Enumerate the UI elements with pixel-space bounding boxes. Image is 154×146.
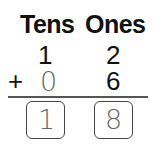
answer-box-tens[interactable]: 1 — [26, 101, 65, 139]
answer-ones: 8 — [105, 104, 122, 135]
header-tens: Tens — [20, 10, 75, 39]
plus-operator: + — [8, 66, 23, 97]
row2-ones: 6 — [106, 66, 120, 97]
answer-tens: 1 — [38, 104, 55, 135]
sum-line — [8, 96, 148, 98]
header-ones: Ones — [85, 10, 146, 39]
answer-box-ones[interactable]: 8 — [94, 101, 133, 139]
row2-tens-handwritten: 0 — [40, 66, 57, 97]
